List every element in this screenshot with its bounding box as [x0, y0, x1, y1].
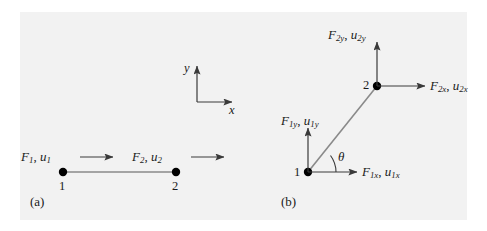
figure-panel-background [20, 12, 467, 220]
